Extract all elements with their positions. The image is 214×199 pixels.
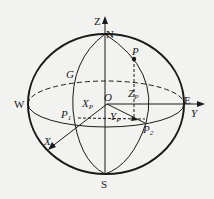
label-z: Z xyxy=(94,15,101,27)
equator-front xyxy=(28,104,184,127)
label-yp: YP xyxy=(110,110,121,124)
label-y: Y xyxy=(191,107,199,119)
label-x: X xyxy=(43,135,52,147)
label-zp: ZP xyxy=(128,87,139,101)
label-g: G xyxy=(66,68,74,80)
x-axis xyxy=(50,104,107,148)
label-p2: P2 xyxy=(142,123,154,137)
label-p: P xyxy=(131,45,139,57)
y-axis-arrow-icon xyxy=(197,101,205,107)
point-p xyxy=(132,57,136,61)
label-xp: XP xyxy=(81,97,94,111)
label-o: O xyxy=(104,91,112,103)
label-n: N xyxy=(106,28,114,40)
label-s: S xyxy=(101,178,107,190)
label-e: E xyxy=(184,94,191,106)
label-p1: P1 xyxy=(60,108,71,122)
celestial-sphere-diagram: Z N S W E O G P P1 P2 ZP XP YP X Y xyxy=(0,0,214,199)
z-axis-arrow-icon xyxy=(102,16,108,24)
label-w: W xyxy=(14,98,25,110)
